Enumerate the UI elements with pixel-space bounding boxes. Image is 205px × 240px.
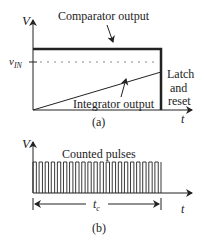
svg-text:vIN: vIN <box>9 55 23 70</box>
pulse-train <box>33 162 161 193</box>
y-axis-label-b: V <box>22 136 32 151</box>
svg-text:tc: tc <box>93 197 100 213</box>
reset-label: reset <box>168 94 191 108</box>
vin-label: vIN <box>9 55 23 70</box>
tc-label: tc <box>93 197 100 213</box>
latch-label: Latch <box>167 67 194 81</box>
counted-pulses-label: Counted pulses <box>62 147 136 161</box>
panel-b: V t Counted pulses tc (b) <box>22 136 192 235</box>
dual-slope-adc-diagram: V t Comparator output vIN Integrator out… <box>0 0 205 240</box>
caption-b: (b) <box>92 221 106 235</box>
x-axis-label-a: t <box>181 112 185 126</box>
comparator-output-label: Comparator output <box>58 9 150 23</box>
panel-a: V t Comparator output vIN Integrator out… <box>9 9 194 129</box>
integrator-output-label: Integrator output <box>73 97 155 111</box>
caption-a: (a) <box>92 115 105 129</box>
y-axis-label-a: V <box>22 13 32 28</box>
x-axis-label-b: t <box>181 202 185 216</box>
comparator-pointer-arrow <box>107 25 113 42</box>
and-label: and <box>170 81 187 95</box>
integrator-pointer-arrow <box>121 79 126 97</box>
